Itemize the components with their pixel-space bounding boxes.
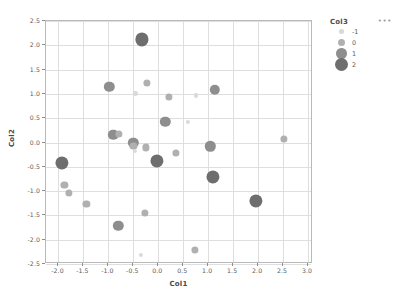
gridline-horizontal (46, 21, 311, 22)
y-tick-label: 1.5 (14, 65, 40, 72)
data-point[interactable] (104, 82, 114, 92)
x-tick-label: 3.0 (302, 267, 312, 274)
data-point[interactable] (172, 149, 179, 156)
x-tickmark (232, 263, 233, 266)
y-tick-label: -1.0 (14, 187, 40, 194)
legend-swatch-container (334, 29, 349, 33)
gridline-horizontal (46, 118, 311, 119)
x-tick-label: 0.5 (177, 267, 187, 274)
y-tickmark (42, 166, 45, 167)
gridline-vertical (108, 21, 109, 262)
y-tick-label: 1.0 (14, 89, 40, 96)
y-tick-label: -1.5 (14, 211, 40, 218)
legend-item-label: 0 (352, 39, 356, 47)
x-tickmark (307, 263, 308, 266)
x-tick-label: 1.0 (202, 267, 212, 274)
gridline-vertical (258, 21, 259, 262)
legend-options-menu-icon[interactable]: ••• (378, 18, 392, 24)
gridline-vertical (308, 21, 309, 262)
y-tick-label: 0.5 (14, 114, 40, 121)
gridline-vertical (158, 21, 159, 262)
x-tick-label: 2.0 (252, 267, 262, 274)
y-tickmark (42, 93, 45, 94)
x-tick-label: -2.0 (51, 267, 63, 274)
gridline-horizontal (46, 215, 311, 216)
data-point[interactable] (280, 135, 287, 142)
x-tickmark (257, 263, 258, 266)
data-point[interactable] (65, 189, 72, 196)
data-point[interactable] (205, 141, 215, 151)
data-point[interactable] (206, 170, 219, 183)
data-point[interactable] (135, 33, 148, 46)
x-tick-label: 2.5 (277, 267, 287, 274)
legend-title: Col3 (330, 18, 348, 26)
legend-marker-icon (339, 29, 343, 33)
data-point[interactable] (194, 93, 198, 97)
y-tick-label: 2.0 (14, 41, 40, 48)
data-point[interactable] (61, 181, 68, 188)
x-tickmark (82, 263, 83, 266)
y-tick-label: -0.5 (14, 162, 40, 169)
x-tickmark (182, 263, 183, 266)
y-tickmark (42, 142, 45, 143)
x-tick-label: 1.5 (227, 267, 237, 274)
legend-item[interactable]: 2 (334, 59, 392, 70)
x-tick-label: -1.5 (76, 267, 88, 274)
data-point[interactable] (115, 130, 122, 137)
gridline-horizontal (46, 70, 311, 71)
data-point[interactable] (166, 93, 173, 100)
legend-item[interactable]: -1 (334, 26, 392, 37)
gridline-horizontal (46, 264, 311, 265)
data-point[interactable] (151, 154, 164, 167)
x-tickmark (207, 263, 208, 266)
data-point[interactable] (250, 195, 263, 208)
y-tickmark (42, 190, 45, 191)
x-tickmark (107, 263, 108, 266)
legend-item-label: 1 (352, 50, 356, 58)
x-tick-label: -1.0 (101, 267, 113, 274)
x-tick-label: 0.0 (152, 267, 162, 274)
legend: Col3 ••• -1012 (330, 18, 392, 70)
data-point[interactable] (192, 246, 199, 253)
x-tickmark (282, 263, 283, 266)
y-tickmark (42, 214, 45, 215)
y-tickmark (42, 117, 45, 118)
legend-item-label: -1 (352, 28, 358, 36)
y-axis-title: Col2 (8, 118, 16, 158)
data-point[interactable] (139, 253, 143, 257)
data-point[interactable] (83, 201, 90, 208)
y-tickmark (42, 69, 45, 70)
x-tickmark (132, 263, 133, 266)
legend-marker-icon (338, 39, 345, 46)
legend-header: Col3 ••• (330, 18, 392, 26)
gridline-horizontal (46, 45, 311, 46)
y-tickmark (42, 20, 45, 21)
y-tick-label: -2.0 (14, 235, 40, 242)
legend-item[interactable]: 0 (334, 37, 392, 48)
gridline-vertical (83, 21, 84, 262)
y-tickmark (42, 239, 45, 240)
x-tickmark (157, 263, 158, 266)
data-point[interactable] (133, 149, 137, 153)
gridline-vertical (183, 21, 184, 262)
data-point[interactable] (113, 221, 123, 231)
data-point[interactable] (186, 120, 190, 124)
y-tick-label: -2.5 (14, 260, 40, 267)
gridline-vertical (233, 21, 234, 262)
y-tickmark (42, 44, 45, 45)
legend-marker-icon (335, 58, 348, 71)
y-tick-label: 2.5 (14, 17, 40, 24)
data-point[interactable] (143, 79, 150, 86)
gridline-horizontal (46, 240, 311, 241)
legend-swatch-container (334, 58, 349, 71)
y-tick-label: 0.0 (14, 138, 40, 145)
data-point[interactable] (160, 117, 170, 127)
x-tick-label: -0.5 (126, 267, 138, 274)
legend-items: -1012 (330, 26, 392, 70)
x-axis-title: Col1 (45, 280, 312, 288)
data-point[interactable] (143, 144, 150, 151)
gridline-horizontal (46, 191, 311, 192)
gridline-horizontal (46, 94, 311, 95)
legend-item-label: 2 (352, 61, 356, 69)
x-tickmark (57, 263, 58, 266)
